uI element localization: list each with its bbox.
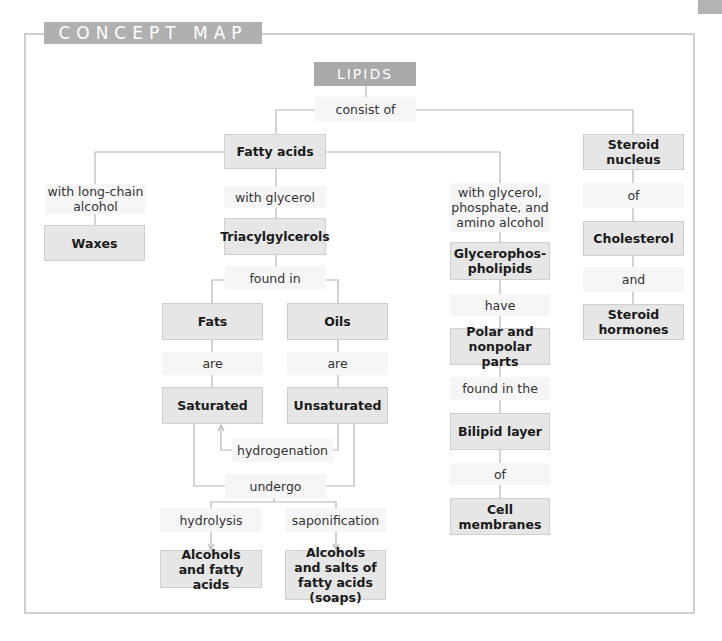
link-undergo: undergo bbox=[225, 474, 326, 498]
link-with-glycerol: with glycerol bbox=[224, 186, 326, 208]
concept-polar-nonpolar-parts: Polar and nonpolar parts bbox=[450, 328, 550, 365]
concept-saturated: Saturated bbox=[162, 387, 263, 424]
concept-steroid-hormones: Steroid hormones bbox=[583, 304, 684, 340]
concept-cell-membranes: Cell membranes bbox=[450, 498, 550, 535]
link-oils-are: are bbox=[287, 352, 388, 375]
concept-fats: Fats bbox=[162, 303, 263, 340]
link-found-in-the: found in the bbox=[450, 377, 550, 400]
link-with-glycerol-phosphate-amino-alcohol: with glycerol, phosphate, and amino alco… bbox=[450, 183, 550, 232]
link-saponification: saponification bbox=[285, 508, 386, 532]
concept-glycerophospholipids: Glycerophos-pholipids bbox=[450, 242, 550, 280]
concept-alcohols-and-salts-of-fatty-acids: Alcohols and salts of fatty acids (soaps… bbox=[285, 550, 386, 600]
concept-triacylglycerols: Triacylgylcerols bbox=[224, 218, 326, 255]
link-of-steroid: of bbox=[583, 183, 684, 208]
concept-waxes: Waxes bbox=[44, 225, 145, 261]
concept-steroid-nucleus: Steroid nucleus bbox=[583, 134, 684, 170]
link-hydrogenation: hydrogenation bbox=[232, 438, 333, 462]
link-and: and bbox=[583, 267, 684, 292]
concept-alcohols-and-fatty-acids: Alcohols and fatty acids bbox=[160, 550, 262, 588]
link-have: have bbox=[450, 294, 550, 316]
root-concept-lipids: LIPIDS bbox=[314, 62, 416, 86]
link-hydrolysis: hydrolysis bbox=[160, 508, 262, 532]
link-consist-of: consist of bbox=[315, 97, 416, 122]
concept-unsaturated: Unsaturated bbox=[287, 387, 388, 424]
link-of-bilipid: of bbox=[450, 463, 550, 485]
link-fats-are: are bbox=[162, 352, 263, 375]
concept-bilipid-layer: Bilipid layer bbox=[450, 413, 550, 450]
concept-fatty-acids: Fatty acids bbox=[224, 134, 326, 169]
link-found-in: found in bbox=[225, 266, 325, 290]
link-with-long-chain-alcohol: with long-chain alcohol bbox=[45, 184, 146, 214]
concept-oils: Oils bbox=[287, 303, 388, 340]
concept-cholesterol: Cholesterol bbox=[583, 221, 684, 256]
